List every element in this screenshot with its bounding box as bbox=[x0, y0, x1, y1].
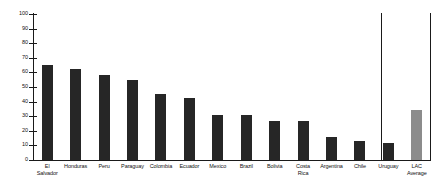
bar-brazil bbox=[241, 115, 252, 160]
x-axis-label: Chile bbox=[346, 163, 374, 170]
x-axis-label: Paraguay bbox=[118, 163, 146, 170]
x-axis-label: Brazil bbox=[232, 163, 260, 170]
bar-costa-rica bbox=[298, 121, 309, 160]
y-axis-tick-label: 60 bbox=[0, 69, 28, 75]
bar-mexico bbox=[212, 115, 223, 160]
y-axis-tick-label: 20 bbox=[0, 128, 28, 134]
x-axis-label: Ecuador bbox=[175, 163, 203, 170]
y-axis-tick-label: 100 bbox=[0, 11, 28, 17]
x-axis-label: Uruguay bbox=[374, 163, 402, 170]
x-axis-label: Bolivia bbox=[260, 163, 288, 170]
y-axis-tick-label: 40 bbox=[0, 99, 28, 105]
x-axis-label: Mexico bbox=[204, 163, 232, 170]
x-axis-labels: El SalvadorHondurasPeruParaguayColombiaE… bbox=[33, 163, 431, 191]
y-axis-tick-label: 10 bbox=[0, 142, 28, 148]
x-axis-label: Honduras bbox=[61, 163, 89, 170]
x-axis-label: Costa Rica bbox=[289, 163, 317, 176]
y-axis-tick-label: 80 bbox=[0, 40, 28, 46]
bar-argentina bbox=[326, 137, 337, 160]
bar-chart: 0102030405060708090100 El SalvadorHondur… bbox=[0, 0, 442, 194]
y-axis-tick-label: 70 bbox=[0, 55, 28, 61]
x-axis-label: LAC Average bbox=[403, 163, 431, 176]
bar-lac-average bbox=[411, 110, 422, 160]
y-axis-tick-label: 90 bbox=[0, 26, 28, 32]
bar-ecuador bbox=[184, 98, 195, 160]
bar-chile bbox=[354, 141, 365, 160]
y-axis-tick-label: 30 bbox=[0, 113, 28, 119]
bar-colombia bbox=[155, 94, 166, 160]
bar-bolivia bbox=[269, 121, 280, 160]
bars-layer bbox=[33, 14, 431, 160]
x-axis-line bbox=[33, 160, 431, 161]
x-axis-label: Colombia bbox=[147, 163, 175, 170]
bar-honduras bbox=[70, 69, 81, 160]
x-axis-label: Peru bbox=[90, 163, 118, 170]
x-axis-label: Argentina bbox=[317, 163, 345, 170]
x-axis-label: El Salvador bbox=[33, 163, 61, 176]
y-axis-tick bbox=[29, 160, 37, 161]
y-axis-tick-label: 0 bbox=[0, 157, 28, 163]
y-axis-tick-label: 50 bbox=[0, 84, 28, 90]
bar-paraguay bbox=[127, 80, 138, 160]
bar-el-salvador bbox=[42, 65, 53, 160]
bar-peru bbox=[99, 75, 110, 160]
bar-uruguay bbox=[383, 143, 394, 160]
